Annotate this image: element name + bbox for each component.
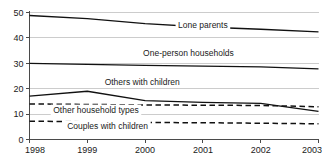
x-axis-tick-label: 2000 <box>135 145 155 155</box>
series-label-one-person-households: One-person households <box>143 48 234 58</box>
y-axis-tick-label: 10 <box>13 109 23 119</box>
x-axis-tick-label: 2002 <box>251 145 271 155</box>
x-axis-tick-labels: 199819992000200120022003 <box>25 145 322 155</box>
y-axis-tick-label: 20 <box>13 84 23 94</box>
y-axis-tick-labels: 01020304050 <box>13 8 23 145</box>
series-label-other-household-types: Other household types <box>53 105 139 115</box>
y-axis-tick-label: 50 <box>13 8 23 18</box>
series-label-others-with-children: Others with children <box>105 77 180 87</box>
gridlines-group <box>30 13 319 115</box>
series-line-lone-parents <box>30 16 319 32</box>
y-axis-tick-label: 30 <box>13 59 23 69</box>
line-chart: 01020304050 199819992000200120022003 Lon… <box>0 0 322 163</box>
x-axis-tick-label: 1998 <box>25 145 45 155</box>
x-axis-tick-label: 2001 <box>193 145 213 155</box>
series-line-one-person-households <box>30 63 319 69</box>
y-axis-tick-label: 0 <box>18 135 23 145</box>
y-axis-tick-label: 40 <box>13 33 23 43</box>
series-label-lone-parents: Lone parents <box>178 20 228 30</box>
series-label-couples-with-children: Couples with children <box>67 121 148 131</box>
x-axis-tick-label: 1999 <box>77 145 97 155</box>
chart-canvas: 01020304050 199819992000200120022003 Lon… <box>0 0 322 163</box>
x-axis-tick-label: 2003 <box>302 145 322 155</box>
